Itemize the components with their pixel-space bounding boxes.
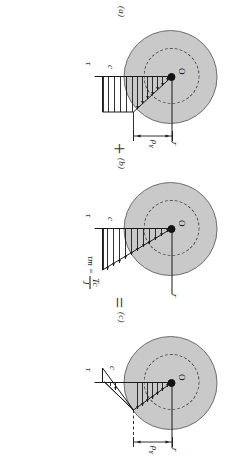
center-label-b: O — [176, 220, 186, 227]
shear-axis-label-a: τ — [83, 62, 93, 65]
yield-radius-sub-c: Y — [147, 450, 154, 454]
stress-profile-b — [0, 152, 229, 304]
stress-profile-a — [0, 0, 229, 152]
shear-axis-label-b: τ — [83, 214, 93, 217]
panel-a: (a) — [0, 0, 229, 152]
radial-axis-label-b: r — [169, 294, 179, 298]
formula-denominator: J — [79, 276, 88, 288]
stress-profile-c — [0, 306, 229, 458]
yield-radius-label-a: ρY — [147, 140, 159, 148]
formula-numerator: Tc — [89, 276, 99, 288]
figure-stage: (a) — [0, 0, 229, 458]
radial-axis-label-c: r — [169, 448, 179, 452]
radial-axis-label-a: r — [169, 142, 179, 146]
radius-label-a: c — [105, 65, 115, 69]
yield-radius-sub-a: Y — [147, 144, 154, 148]
panel-b: (b) — [0, 152, 229, 304]
center-label-a: O — [176, 68, 186, 75]
center-label-c: O — [176, 374, 186, 381]
formula-tau-sub: m — [85, 259, 95, 266]
yield-radius-label-c: ρY — [147, 446, 159, 454]
radius-label-c: c — [107, 366, 117, 370]
shear-axis-label-c: τ — [83, 368, 93, 371]
max-shear-formula: τm = Tc J — [79, 256, 99, 289]
radius-label-b: c — [105, 217, 115, 221]
formula-fraction: Tc J — [79, 276, 99, 288]
panel-c: (c) — [0, 306, 229, 458]
formula-equals: = — [85, 268, 95, 274]
